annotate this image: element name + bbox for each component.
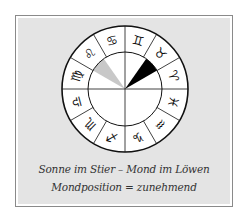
caption-sun-moon: Sonne im Stier – Mond im Löwen xyxy=(18,163,230,175)
caption-moon-phase: Mondposition = zunehmend xyxy=(18,181,230,193)
